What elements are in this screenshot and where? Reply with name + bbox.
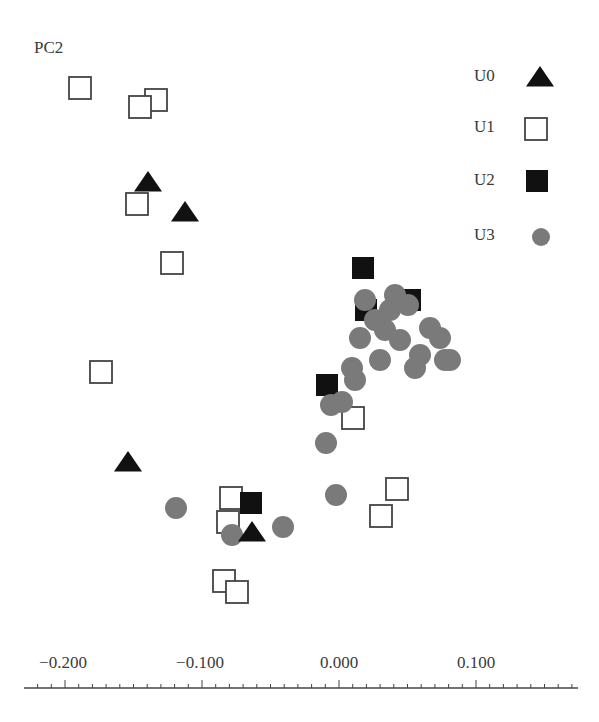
scatter-plot	[0, 0, 599, 722]
u3-point	[272, 516, 294, 538]
u3-point	[354, 289, 376, 311]
u2-point	[240, 492, 262, 514]
u3-point	[325, 484, 347, 506]
x-tick-label: −0.100	[176, 653, 224, 673]
x-tick-label: 0.100	[457, 653, 495, 673]
u3-point	[344, 369, 366, 391]
points-layer	[69, 77, 461, 603]
legend-label-u3: U3	[474, 225, 495, 245]
u2-point	[316, 374, 338, 396]
u1-point	[90, 361, 112, 383]
legend-label-u2: U2	[474, 170, 495, 190]
u3-point	[364, 309, 386, 331]
u1-point	[69, 77, 91, 99]
legend-label-u1: U1	[474, 117, 495, 137]
legend-circle-icon	[532, 228, 550, 246]
u3-point	[369, 349, 391, 371]
u1-point	[161, 252, 183, 274]
u1-point	[220, 487, 242, 509]
u1-point	[126, 193, 148, 215]
x-tick-label: −0.200	[39, 653, 87, 673]
legend-triangle-icon	[526, 66, 554, 86]
u0-point	[114, 451, 142, 471]
u3-point	[165, 497, 187, 519]
u2-point	[352, 257, 374, 279]
legend-open-square-icon	[525, 118, 547, 140]
u1-point	[370, 505, 392, 527]
u0-point	[171, 201, 199, 221]
u0-point	[134, 171, 162, 191]
u3-point	[221, 524, 243, 546]
u1-point	[129, 96, 151, 118]
u3-point	[439, 349, 461, 371]
u3-point	[409, 344, 431, 366]
x-axis	[24, 680, 578, 688]
x-tick-label: 0.000	[320, 653, 358, 673]
u3-point	[331, 391, 353, 413]
u1-point	[226, 581, 248, 603]
u3-point	[315, 432, 337, 454]
u3-point	[349, 327, 371, 349]
legend-label-u0: U0	[474, 66, 495, 86]
u1-point	[386, 478, 408, 500]
legend-filled-square-icon	[526, 170, 548, 192]
u3-point	[429, 327, 451, 349]
legend	[525, 66, 554, 246]
u3-point	[389, 329, 411, 351]
